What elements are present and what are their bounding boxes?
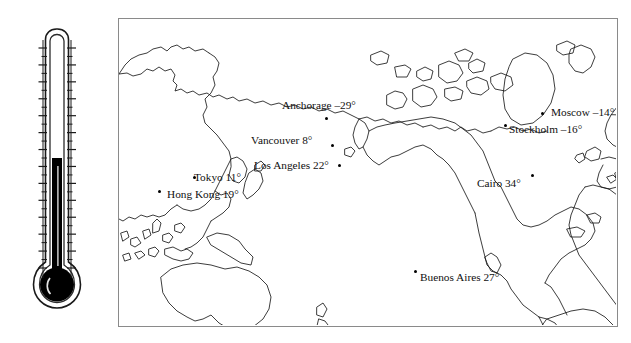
island-1 (153, 219, 161, 233)
arctic-island-4 (439, 61, 463, 83)
alaska-peninsula (353, 119, 363, 149)
island-7 (149, 247, 159, 257)
aleutian-island (345, 147, 355, 157)
island-3 (143, 229, 151, 239)
great-britain (585, 147, 601, 161)
island-4 (131, 237, 141, 247)
new-zealand-south (317, 319, 333, 325)
city-label-cairo: Cairo 34° (477, 178, 521, 189)
south-china-coast (119, 205, 177, 221)
siberia-arctic-coast (119, 67, 423, 127)
arctic-island-9 (469, 59, 485, 73)
city-label-vancouver: Vancouver 8° (251, 135, 312, 146)
gulf-coast (545, 283, 567, 315)
arctic-island-6 (467, 77, 489, 95)
city-label-los-angeles: Los Angeles 22° (254, 160, 329, 171)
figure-root: 1581401221048668503214–4–22–40–58–76 706… (0, 0, 631, 343)
indochina-coast (185, 221, 211, 249)
thermometer: 1581401221048668503214–4–22–40–58–76 706… (0, 0, 110, 343)
alaska-west-canada-coast (359, 119, 475, 213)
city-dot-buenos-aires (414, 270, 417, 273)
north-america-east-coast (495, 181, 595, 283)
city-label-anchorage: Anchorage –29° (282, 100, 356, 111)
north-africa-link (585, 185, 609, 189)
island-2 (163, 233, 173, 243)
city-label-hong-kong: Hong Kong 19° (167, 189, 239, 200)
canada-north-coast (369, 117, 495, 181)
arctic-island-3 (417, 67, 433, 81)
arctic-island-11 (491, 73, 513, 91)
australia (161, 263, 271, 325)
city-dot-los-angeles (338, 164, 341, 167)
arctic-north (423, 125, 491, 133)
arctic-island-12 (557, 41, 575, 55)
island-5 (121, 231, 129, 241)
city-dot-stockholm (504, 124, 507, 127)
new-zealand-north (317, 303, 327, 317)
arctic-island-5 (445, 87, 463, 101)
ireland (575, 153, 585, 163)
mediterranean-island (607, 175, 616, 183)
city-dot-anchorage (325, 117, 328, 120)
island-9 (123, 253, 131, 261)
city-label-buenos-aires: Buenos Aires 27° (420, 272, 499, 283)
africa-east-coast (609, 189, 616, 321)
arctic-island-10 (455, 49, 473, 61)
greenland (503, 53, 555, 125)
scandinavia-peninsula (605, 115, 616, 151)
island-8 (135, 251, 145, 259)
eurasia-south-belt (601, 157, 616, 189)
city-label-moscow: Moscow –14° (551, 107, 614, 118)
arctic-island-2 (413, 85, 437, 107)
arctic-island-1 (387, 91, 407, 109)
city-dot-moscow (541, 112, 544, 115)
city-dot-tokyo (193, 176, 196, 179)
baja-california (485, 253, 501, 273)
new-guinea (207, 233, 253, 265)
city-dot-vancouver (331, 144, 334, 147)
island-6 (175, 223, 185, 233)
map-frame (118, 18, 618, 327)
city-dot-cairo (531, 174, 534, 177)
city-label-tokyo: Tokyo 11° (194, 172, 241, 183)
arctic-island-8 (395, 65, 411, 77)
mediterranean-north-coast (597, 165, 616, 201)
siberia-north-coast (119, 45, 209, 74)
south-america (523, 309, 616, 325)
iceland (569, 45, 595, 73)
indonesia-java (165, 247, 193, 261)
city-label-stockholm: Stockholm –16° (509, 124, 582, 135)
north-america-west-coast (475, 213, 539, 317)
city-dot-hong-kong (158, 190, 161, 193)
thermometer-tickmarks (0, 0, 110, 343)
arctic-island-7 (371, 51, 389, 65)
africa-west-coast (569, 187, 616, 321)
